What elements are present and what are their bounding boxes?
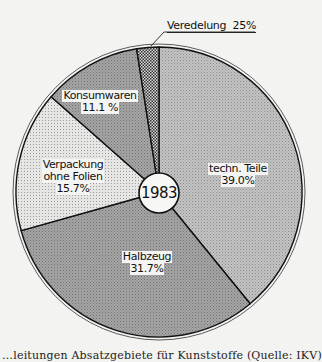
slice-label-techn-teile: techn. Teile 39.0%: [196, 163, 280, 187]
center-year-label: 1983: [139, 184, 179, 202]
slice-label-verpackung-value: 15.7%: [56, 183, 91, 195]
slice-label-verpackung: Verpackung ohne Folien 15.7%: [33, 159, 113, 195]
callout-label-veredelung: Veredelung 25%: [167, 20, 256, 33]
slice-label-konsumwaren: Konsumwaren 11.1 %: [62, 90, 138, 114]
slice-label-halbzeug: Halbzeug 31.7%: [112, 251, 182, 275]
slice-label-halbzeug-value: 31.7%: [130, 263, 165, 275]
slice-label-konsumwaren-value: 11.1 %: [81, 102, 119, 114]
figure-caption: …leitungen Absatzgebiete für Kunststoffe…: [2, 349, 322, 362]
slice-label-techn-value: 39.0%: [221, 175, 256, 187]
